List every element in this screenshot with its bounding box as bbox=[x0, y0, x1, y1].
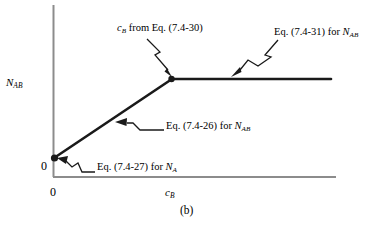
annotation-31-text: Eq. (7.4-31) for bbox=[274, 26, 343, 37]
annotation-27-variable: N bbox=[166, 161, 173, 172]
annotation-eq-7-4-26: Eq. (7.4-26) for NAB bbox=[166, 121, 250, 132]
figure-caption: (b) bbox=[180, 205, 193, 217]
annotation-26-text: Eq. (7.4-26) for bbox=[166, 120, 235, 131]
y-axis-origin-tick-label: 0 bbox=[41, 160, 47, 172]
annotation-eq-7-4-31: Eq. (7.4-31) for NAB bbox=[274, 27, 358, 38]
annotation-26-variable: N bbox=[235, 120, 242, 131]
annotation-cb-from-eq: cB from Eq. (7.4-30) bbox=[117, 23, 203, 34]
annotation-27-subscript: A bbox=[173, 166, 177, 174]
annotation-cb-subscript: B bbox=[122, 27, 126, 35]
annotation-27-text: Eq. (7.4-27) for bbox=[97, 161, 166, 172]
leader-eq-7-4-26 bbox=[115, 118, 164, 130]
annotation-31-subscript: AB bbox=[350, 31, 359, 39]
curve-segment-sloped bbox=[54, 79, 172, 158]
x-tick-subscript: B bbox=[170, 191, 175, 200]
y-axis-label: NAB bbox=[6, 77, 22, 88]
x-axis-cb-tick-label: cB bbox=[165, 187, 174, 198]
data-curve-group bbox=[51, 76, 331, 162]
annotation-26-subscript: AB bbox=[242, 125, 251, 133]
y-axis-label-subscript: AB bbox=[13, 81, 22, 90]
x-axis-origin-tick-label: 0 bbox=[50, 186, 56, 198]
annotation-eq-7-4-27: Eq. (7.4-27) for NA bbox=[97, 162, 177, 173]
leader-cb-from-eq bbox=[147, 39, 172, 77]
marker-kink-point bbox=[168, 76, 174, 82]
figure-container: NAB 0 0 cB cB from Eq. (7.4-30) Eq. (7.4… bbox=[0, 0, 387, 226]
leader-eq-7-4-31 bbox=[231, 40, 278, 77]
annotation-31-variable: N bbox=[343, 26, 350, 37]
annotation-cb-variable: c bbox=[117, 22, 122, 33]
leader-eq-7-4-27 bbox=[57, 156, 95, 172]
annotation-cb-text: from Eq. (7.4-30) bbox=[126, 22, 203, 33]
